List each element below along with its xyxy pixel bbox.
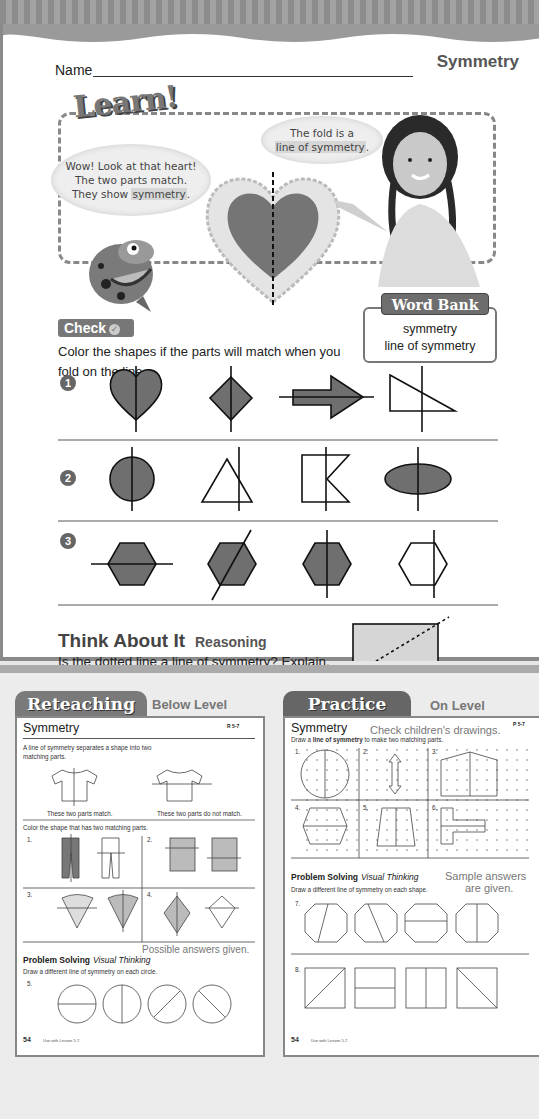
reteaching-level: Below Level (152, 697, 227, 712)
reteaching-tab: Reteaching (15, 691, 147, 717)
triangle-shape (202, 459, 252, 502)
hexagon-shape (399, 543, 447, 585)
symmetry-shapes (3, 24, 539, 661)
think-rectangle (345, 617, 449, 661)
practice-sheet: Symmetry Check children's drawings. P 5-… (283, 716, 539, 1057)
section-divider (0, 665, 539, 673)
problem-solving-heading: Problem SolvingVisual Thinking (23, 955, 151, 965)
student-page: Name Symmetry Learn! Wow! Look at that h… (0, 24, 539, 661)
reteaching-sheet: Symmetry R 5-7 A line of symmetry separa… (15, 716, 265, 1057)
answer-note: Possible answers given. (142, 944, 249, 955)
think-about-it-heading: Think About ItReasoning (58, 630, 267, 652)
top-border-stripe (0, 0, 539, 24)
teacher-resources-area: Reteaching Below Level Symmetry R 5-7 A … (0, 665, 539, 1119)
practice-tab: Practice (283, 691, 411, 717)
reteaching-figures (17, 718, 267, 1059)
practice-level: On Level (430, 698, 485, 713)
problem-solving-heading: Problem SolvingVisual Thinking (291, 872, 419, 882)
